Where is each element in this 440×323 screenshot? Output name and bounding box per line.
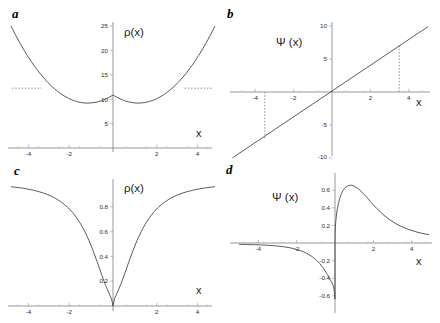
- panel-a-label: a: [12, 6, 19, 22]
- panel-a-plot: -4 -2 2 4 5 10 15 20 25: [0, 0, 220, 162]
- svg-text:2: 2: [369, 94, 373, 101]
- panel-c-x-axis-label: x: [196, 284, 202, 296]
- panel-a: -4 -2 2 4 5 10 15 20 25: [0, 0, 220, 162]
- panel-b-x-axis-label: x: [416, 96, 422, 108]
- svg-text:4: 4: [410, 245, 414, 252]
- panel-a-x-axis-label: x: [196, 127, 202, 139]
- panel-d-x-axis-label: x: [416, 255, 422, 267]
- svg-text:-5: -5: [321, 121, 327, 128]
- panel-a-function-label: ρ(x): [124, 26, 144, 38]
- panel-b: -4 -2 2 4 5 10 -5 -10 Ψ (x): [220, 0, 440, 162]
- svg-text:-4: -4: [26, 150, 32, 157]
- svg-text:-2: -2: [66, 150, 72, 157]
- panel-c-function-label: ρ(x): [124, 182, 144, 194]
- panel-a-y-ticklabels: 5 10 15 20 25: [101, 22, 108, 127]
- panel-b-plot: -4 -2 2 4 5 10 -5 -10 Ψ (x): [220, 0, 440, 162]
- panel-c: -4 -2 2 4 0.2 0.4 0.6 0.8 ρ(x) x c: [0, 161, 220, 323]
- scientific-figure: -4 -2 2 4 5 10 15 20 25: [0, 0, 440, 323]
- svg-text:20: 20: [101, 47, 108, 54]
- svg-text:-2: -2: [66, 308, 72, 315]
- panel-c-label: c: [14, 163, 20, 179]
- svg-text:0.2: 0.2: [321, 222, 330, 229]
- svg-text:-10: -10: [318, 153, 328, 160]
- svg-text:-0.2: -0.2: [319, 257, 330, 264]
- panel-d: -4 -2 2 4 0.2 0.4 0.6 -0.2 -0.4 -0.6: [220, 161, 440, 323]
- svg-text:4: 4: [196, 308, 200, 315]
- svg-text:4: 4: [196, 150, 200, 157]
- svg-text:2: 2: [372, 245, 376, 252]
- svg-text:5: 5: [324, 55, 328, 62]
- svg-text:-4: -4: [252, 94, 258, 101]
- panel-d-curve-psi: [239, 185, 429, 299]
- svg-text:-2: -2: [291, 94, 297, 101]
- panel-b-label: b: [227, 6, 234, 22]
- panel-d-function-label: Ψ (x): [272, 191, 298, 203]
- svg-text:0.6: 0.6: [99, 228, 108, 235]
- panel-c-y-major-ticks: [110, 207, 113, 281]
- svg-text:-0.6: -0.6: [319, 292, 330, 299]
- svg-text:0.4: 0.4: [321, 204, 330, 211]
- panel-a-y-major-ticks: [110, 26, 113, 124]
- svg-text:2: 2: [155, 150, 159, 157]
- svg-text:10: 10: [320, 22, 327, 29]
- svg-text:0.8: 0.8: [99, 203, 108, 210]
- panel-b-y-ticklabels: 5 10 -5 -10: [318, 22, 328, 159]
- svg-text:0.6: 0.6: [321, 186, 330, 193]
- panel-c-plot: -4 -2 2 4 0.2 0.4 0.6 0.8 ρ(x) x: [0, 161, 220, 323]
- svg-text:-4: -4: [26, 308, 32, 315]
- svg-text:0.4: 0.4: [99, 253, 108, 260]
- svg-text:2: 2: [155, 308, 159, 315]
- svg-text:4: 4: [407, 94, 411, 101]
- svg-text:-4: -4: [255, 245, 261, 252]
- svg-text:25: 25: [101, 22, 108, 29]
- panel-d-plot: -4 -2 2 4 0.2 0.4 0.6 -0.2 -0.4 -0.6: [220, 161, 440, 323]
- panel-d-label: d: [226, 162, 233, 178]
- svg-text:15: 15: [101, 71, 108, 78]
- svg-text:5: 5: [105, 120, 109, 127]
- panel-b-function-label: Ψ (x): [276, 36, 302, 48]
